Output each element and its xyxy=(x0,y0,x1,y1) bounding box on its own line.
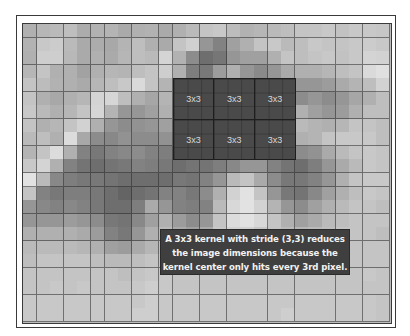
pixel-cell xyxy=(64,119,78,133)
pixel-cell xyxy=(145,227,159,241)
pixel-cell xyxy=(77,78,91,92)
pixel-cell xyxy=(145,241,159,255)
pixel-cell xyxy=(105,38,119,52)
pixel-cell xyxy=(200,308,214,322)
pixel-cell xyxy=(336,78,350,92)
pixel-cell xyxy=(173,214,187,228)
pixel-cell xyxy=(336,281,350,295)
pixel-cell xyxy=(37,105,51,119)
pixel-cell xyxy=(37,214,51,228)
pixel-cell xyxy=(50,65,64,79)
pixel-cell xyxy=(50,241,64,255)
pixel-cell xyxy=(268,295,282,309)
pixel-cell xyxy=(240,173,254,187)
pixel-cell xyxy=(308,159,322,173)
pixel-cell xyxy=(77,132,91,146)
pixel-cell xyxy=(91,254,105,268)
pixel-cell xyxy=(213,281,227,295)
pixel-cell xyxy=(23,241,37,255)
pixel-cell xyxy=(240,308,254,322)
pixel-cell xyxy=(363,78,377,92)
pixel-cell xyxy=(281,187,295,201)
pixel-cell xyxy=(322,187,336,201)
pixel-cell xyxy=(50,200,64,214)
kernel-label: 3x3 xyxy=(186,135,201,145)
pixel-cell xyxy=(240,281,254,295)
pixel-cell xyxy=(349,38,363,52)
pixel-cell xyxy=(281,173,295,187)
pixel-cell xyxy=(281,159,295,173)
pixel-cell xyxy=(118,24,132,38)
pixel-cell xyxy=(254,281,268,295)
pixel-cell xyxy=(363,51,377,65)
pixel-cell xyxy=(23,92,37,106)
pixel-cell xyxy=(159,119,173,133)
pixel-cell xyxy=(213,51,227,65)
pixel-cell xyxy=(145,132,159,146)
pixel-cell xyxy=(23,24,37,38)
pixel-cell xyxy=(50,227,64,241)
pixel-cell xyxy=(281,308,295,322)
pixel-cell xyxy=(349,24,363,38)
pixel-cell xyxy=(91,227,105,241)
pixel-cell xyxy=(240,295,254,309)
pixel-cell xyxy=(50,281,64,295)
pixel-cell xyxy=(376,227,390,241)
pixel-cell xyxy=(376,187,390,201)
pixel-cell xyxy=(105,173,119,187)
pixel-cell xyxy=(159,159,173,173)
pixel-cell xyxy=(363,268,377,282)
pixel-cell xyxy=(145,308,159,322)
pixel-cell xyxy=(295,132,309,146)
pixel-cell xyxy=(295,105,309,119)
pixel-cell xyxy=(118,281,132,295)
pixel-cell xyxy=(145,78,159,92)
pixel-cell xyxy=(173,51,187,65)
pixel-cell xyxy=(308,173,322,187)
pixel-cell xyxy=(363,254,377,268)
pixel-cell xyxy=(336,308,350,322)
pixel-cell xyxy=(105,78,119,92)
pixel-cell xyxy=(118,173,132,187)
pixel-cell xyxy=(77,254,91,268)
pixel-cell xyxy=(105,24,119,38)
pixel-cell xyxy=(23,200,37,214)
pixel-cell xyxy=(145,159,159,173)
pixel-cell xyxy=(118,200,132,214)
pixel-cell xyxy=(268,214,282,228)
annotation-box: A 3x3 kernel with stride (3,3) reduces t… xyxy=(160,229,350,275)
pixel-cell xyxy=(227,159,241,173)
pixel-cell xyxy=(213,159,227,173)
pixel-cell xyxy=(159,308,173,322)
pixel-cell xyxy=(268,308,282,322)
pixel-grid: 3x33x33x33x33x33x3 xyxy=(22,23,392,324)
pixel-cell xyxy=(105,187,119,201)
pixel-cell xyxy=(186,281,200,295)
pixel-cell xyxy=(173,159,187,173)
pixel-cell xyxy=(322,308,336,322)
pixel-cell xyxy=(363,146,377,160)
pixel-cell xyxy=(295,146,309,160)
pixel-cell xyxy=(173,24,187,38)
pixel-cell xyxy=(118,214,132,228)
pixel-cell xyxy=(281,65,295,79)
pixel-cell xyxy=(145,51,159,65)
pixel-cell xyxy=(159,38,173,52)
pixel-cell xyxy=(376,146,390,160)
pixel-cell xyxy=(159,92,173,106)
pixel-cell xyxy=(64,24,78,38)
pixel-cell xyxy=(23,187,37,201)
pixel-cell xyxy=(213,24,227,38)
pixel-cell xyxy=(173,295,187,309)
pixel-cell xyxy=(295,78,309,92)
pixel-cell xyxy=(363,200,377,214)
pixel-cell xyxy=(322,24,336,38)
pixel-cell xyxy=(91,38,105,52)
pixel-cell xyxy=(322,132,336,146)
pixel-cell xyxy=(376,308,390,322)
pixel-cell xyxy=(322,159,336,173)
pixel-cell xyxy=(105,295,119,309)
pixel-cell xyxy=(105,308,119,322)
pixel-cell xyxy=(227,38,241,52)
pixel-cell xyxy=(322,214,336,228)
